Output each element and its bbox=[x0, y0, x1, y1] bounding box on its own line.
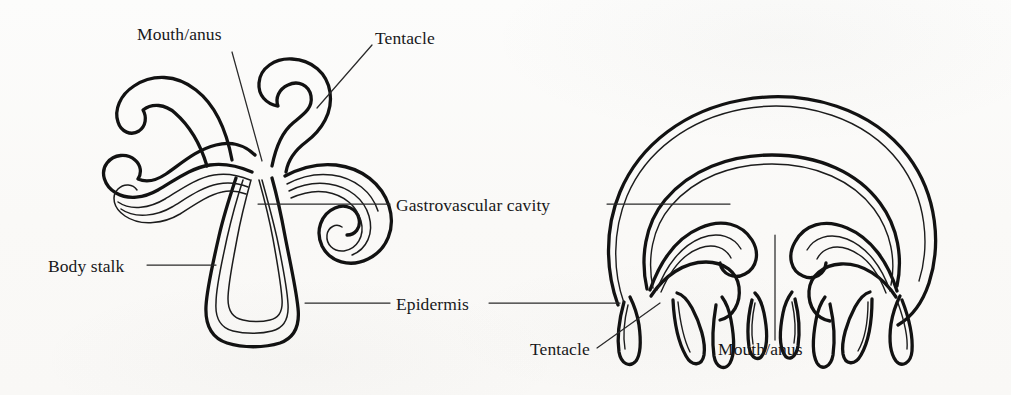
label-tentacle-top: Tentacle bbox=[375, 28, 435, 49]
medusa-tentacle-4-lining bbox=[752, 303, 755, 344]
label-gastrovascular-cavity: Gastrovascular cavity bbox=[396, 195, 550, 216]
label-body-stalk: Body stalk bbox=[48, 256, 124, 277]
medusa-tentacle-5-lining bbox=[792, 302, 795, 343]
label-tentacle-bottom: Tentacle bbox=[530, 339, 590, 360]
medusa-tentacle-6 bbox=[814, 297, 835, 367]
polyp-tentacle-lower-right-inner-3 bbox=[291, 191, 362, 251]
medusa-gastro-lining-right-2 bbox=[817, 247, 886, 293]
label-mouth-anus-bottom: Mouth/anus bbox=[718, 339, 803, 360]
medusa-tentacle-8 bbox=[890, 296, 912, 364]
medusa-inner-outlines bbox=[616, 106, 925, 352]
polyp-tentacle-upper-right bbox=[259, 59, 331, 172]
cnidarian-body-forms-figure: Mouth/anus Tentacle Gastrovascular cavit… bbox=[0, 0, 1011, 395]
polyp-tentacle-lower-right-outer bbox=[285, 165, 391, 264]
medusa-subumbrella-thin bbox=[651, 164, 893, 288]
polyp-inner-outlines bbox=[114, 174, 378, 333]
label-epidermis: Epidermis bbox=[396, 294, 469, 315]
leader-tentacle-bottom bbox=[597, 303, 660, 348]
polyp-tentacle-upper-left bbox=[117, 77, 232, 166]
label-mouth-anus-top: Mouth/anus bbox=[137, 24, 222, 45]
